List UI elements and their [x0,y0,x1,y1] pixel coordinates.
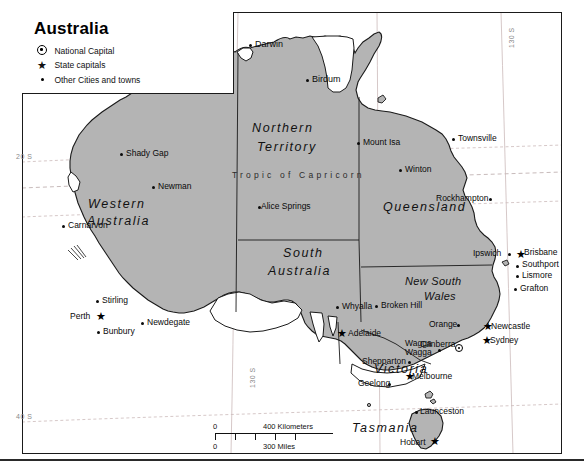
scale-tick [295,433,296,440]
tasmania-island [409,409,443,449]
legend-label: National Capital [54,46,114,56]
legend-item-city: Other Cities and towns [34,75,140,85]
scale-km-value: 400 Kilometers [263,422,313,431]
state-capital-icon: ★ [34,61,50,69]
scale-tick [215,433,216,440]
map-legend: Australia National Capital ★ State capit… [22,12,234,94]
scale-tick [275,433,276,440]
scale-tick [235,433,236,440]
bottom-rule [0,459,584,461]
scale-mi-value: 300 Miles [263,442,295,451]
scale-km-zero: 0 [213,422,217,431]
coast-hatching [68,245,86,260]
national-capital-icon [34,45,50,56]
legend-item-state-capital: ★ State capitals [34,60,105,70]
scale-bar-line [215,433,333,434]
city-dot-icon [34,75,50,85]
australia-map: Australia National Capital ★ State capit… [0,0,584,466]
scale-mi-zero: 0 [213,442,217,451]
legend-label: Other Cities and towns [54,75,140,85]
map-title: Australia [34,19,109,39]
legend-label: State capitals [54,60,105,70]
legend-item-national-capital: National Capital [34,45,114,56]
scale-tick [255,433,256,440]
